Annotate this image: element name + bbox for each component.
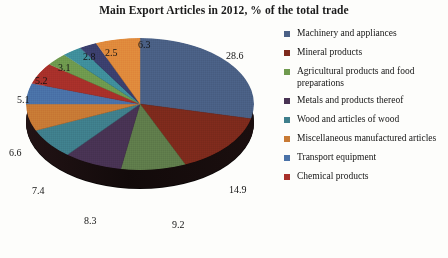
legend-swatch-icon	[284, 174, 290, 180]
chart-page: Main Export Articles in 2012, % of the t…	[0, 0, 448, 258]
slice-label-6-3: 6.3	[138, 39, 151, 50]
legend-item-label: Wood and articles of wood	[297, 114, 399, 126]
legend-item-label: Machinery and appliances	[297, 28, 397, 40]
slice-label-5-1: 5.1	[17, 94, 30, 105]
pie-slices	[26, 38, 254, 170]
legend-swatch-icon	[284, 50, 290, 56]
legend-item-7[interactable]: Chemical products	[284, 171, 448, 184]
slice-label-2-8: 2.8	[83, 51, 96, 62]
legend-item-3[interactable]: Metals and products thereof	[284, 95, 448, 108]
legend-item-4[interactable]: Wood and articles of wood	[284, 114, 448, 127]
legend-swatch-icon	[284, 155, 290, 161]
pie-chart: 28.6 14.9 9.2 8.3 7.4 6.6 5.1 5.2 3.1 2.…	[0, 22, 272, 258]
legend-swatch-icon	[284, 136, 290, 142]
legend: Machinery and appliancesMineral products…	[284, 28, 448, 190]
slice-label-9-2: 9.2	[172, 219, 185, 230]
legend-item-6[interactable]: Transport equipment	[284, 152, 448, 165]
legend-item-0[interactable]: Machinery and appliances	[284, 28, 448, 41]
pie-top-face	[26, 38, 254, 170]
slice-label-7-4: 7.4	[32, 185, 45, 196]
legend-swatch-icon	[284, 31, 290, 37]
slice-label-5-2: 5.2	[35, 75, 48, 86]
legend-item-label: Miscellaneous manufactured articles	[297, 133, 436, 145]
legend-item-5[interactable]: Miscellaneous manufactured articles	[284, 133, 448, 146]
legend-swatch-icon	[284, 117, 290, 123]
slice-label-8-3: 8.3	[84, 215, 97, 226]
legend-item-label: Agricultural products and food preparati…	[297, 66, 448, 89]
slice-label-28-6: 28.6	[226, 50, 244, 61]
legend-item-label: Metals and products thereof	[297, 95, 403, 107]
legend-item-label: Transport equipment	[297, 152, 376, 164]
slice-label-6-6: 6.6	[9, 147, 22, 158]
legend-item-1[interactable]: Mineral products	[284, 47, 448, 60]
slice-label-3-1: 3.1	[58, 62, 71, 73]
slice-label-14-9: 14.9	[229, 184, 247, 195]
legend-item-2[interactable]: Agricultural products and food preparati…	[284, 66, 448, 89]
legend-item-label: Chemical products	[297, 171, 369, 183]
legend-swatch-icon	[284, 98, 290, 104]
legend-item-label: Mineral products	[297, 47, 362, 59]
chart-title: Main Export Articles in 2012, % of the t…	[0, 4, 448, 16]
slice-label-2-5: 2.5	[105, 47, 118, 58]
legend-swatch-icon	[284, 69, 290, 75]
